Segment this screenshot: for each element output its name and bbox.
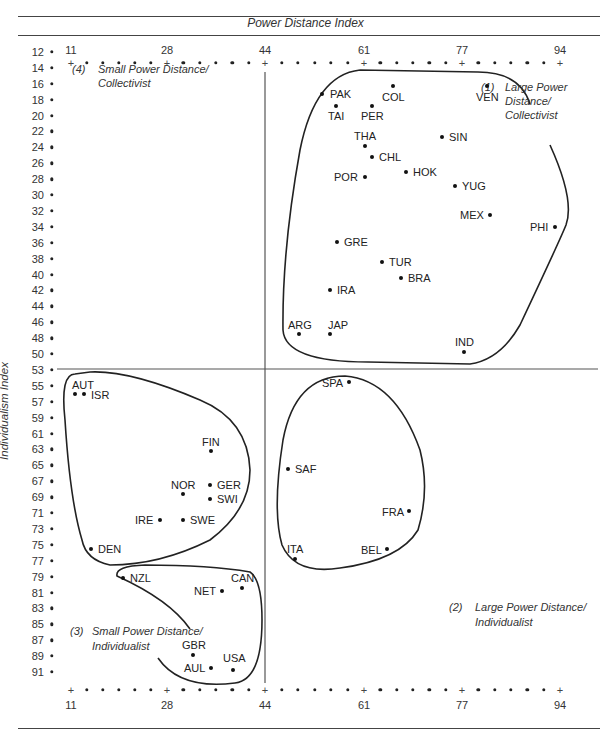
point-label-gre: GRE xyxy=(344,237,368,248)
point-label-mex: MEX xyxy=(460,210,484,221)
data-point-tur xyxy=(380,260,384,264)
point-label-fin: FIN xyxy=(202,437,220,448)
data-point-sin xyxy=(440,135,444,139)
data-point-fin xyxy=(209,449,213,453)
data-point-nzl xyxy=(121,576,125,580)
data-point-yug xyxy=(453,184,457,188)
point-label-isr: ISR xyxy=(91,390,109,401)
point-label-usa: USA xyxy=(223,653,246,664)
point-label-sin: SIN xyxy=(449,132,467,143)
data-point-aul xyxy=(209,666,213,670)
point-label-hok: HOK xyxy=(413,167,437,178)
data-point-mex xyxy=(488,213,492,217)
data-point-chl xyxy=(370,155,374,159)
data-point-isr xyxy=(82,392,86,396)
data-point-swi xyxy=(208,497,212,501)
data-point-ven xyxy=(485,84,489,88)
data-point-can xyxy=(240,586,244,590)
data-point-ire xyxy=(158,518,162,522)
data-point-hok xyxy=(404,170,408,174)
point-label-arg: ARG xyxy=(288,320,312,331)
point-label-fra: FRA xyxy=(382,507,404,518)
point-label-net: NET xyxy=(194,586,216,597)
point-label-por: POR xyxy=(334,172,358,183)
point-label-col: COL xyxy=(382,92,405,103)
point-label-ind: IND xyxy=(455,337,474,348)
data-point-bra xyxy=(399,276,403,280)
point-label-can: CAN xyxy=(231,573,254,584)
point-label-ven: VEN xyxy=(476,92,499,103)
data-point-per xyxy=(370,104,374,108)
point-label-swi: SWI xyxy=(217,494,238,505)
point-label-ita: ITA xyxy=(287,544,303,555)
point-label-spa: SPA xyxy=(322,378,343,389)
data-point-spa xyxy=(347,380,351,384)
data-point-phi xyxy=(553,225,557,229)
data-point-por xyxy=(363,175,367,179)
data-point-col xyxy=(391,84,395,88)
data-point-gre xyxy=(335,240,339,244)
data-point-ger xyxy=(208,483,212,487)
point-label-yug: YUG xyxy=(462,181,486,192)
point-label-ira: IRA xyxy=(337,285,355,296)
point-label-bra: BRA xyxy=(408,273,431,284)
point-label-jap: JAP xyxy=(328,320,348,331)
data-point-saf xyxy=(286,467,290,471)
point-label-tur: TUR xyxy=(389,257,412,268)
data-point-tai xyxy=(334,104,338,108)
point-label-chl: CHL xyxy=(379,152,401,163)
point-label-aul: AUL xyxy=(184,663,205,674)
point-label-den: DEN xyxy=(98,544,121,555)
data-point-bel xyxy=(385,547,389,551)
data-point-net xyxy=(220,589,224,593)
data-point-den xyxy=(89,547,93,551)
point-label-pak: PAK xyxy=(330,89,351,100)
point-label-gbr: GBR xyxy=(182,640,206,651)
point-label-swe: SWE xyxy=(190,515,215,526)
data-point-gbr xyxy=(191,653,195,657)
data-point-fra xyxy=(407,509,411,513)
data-point-swe xyxy=(181,518,185,522)
data-point-aut xyxy=(73,392,77,396)
point-label-tai: TAI xyxy=(328,111,344,122)
data-point-pak xyxy=(320,92,324,96)
data-point-tha xyxy=(363,144,367,148)
point-label-saf: SAF xyxy=(295,464,316,475)
data-point-ind xyxy=(462,350,466,354)
point-label-phi: PHI xyxy=(530,222,548,233)
point-label-nor: NOR xyxy=(171,480,195,491)
data-point-usa xyxy=(231,668,235,672)
data-point-nor xyxy=(181,492,185,496)
point-label-nzl: NZL xyxy=(130,573,151,584)
data-point-ita xyxy=(293,557,297,561)
data-point-arg xyxy=(297,332,301,336)
data-point-jap xyxy=(328,332,332,336)
point-label-bel: BEL xyxy=(361,545,382,556)
point-label-ire: IRE xyxy=(135,515,153,526)
point-label-tha: THA xyxy=(354,131,376,142)
point-label-ger: GER xyxy=(217,480,241,491)
point-label-per: PER xyxy=(361,111,384,122)
data-point-ira xyxy=(328,288,332,292)
